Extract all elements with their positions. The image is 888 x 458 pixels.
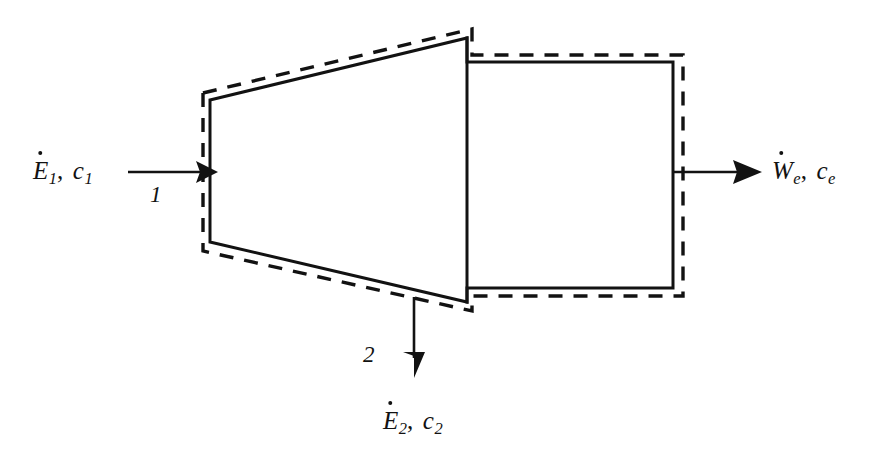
bleed-energy-symbol: E	[383, 408, 398, 433]
bleed-energy-dot-icon	[388, 401, 392, 405]
duct-solid-outline	[210, 38, 673, 302]
bleed-flow-label: E2,c2	[383, 408, 443, 437]
inlet-energy-dot-icon	[38, 151, 42, 155]
outlet-work-label: We,ce	[772, 158, 835, 187]
figure-root: E1,c1 1 We,ce 2 E2,c2	[0, 0, 888, 458]
inlet-velocity-subscript: 1	[84, 169, 93, 188]
outlet-work-dot-icon	[780, 151, 784, 155]
work-output-arrow	[673, 160, 762, 184]
outlet-label-separator: ,	[801, 157, 813, 184]
bleed-velocity-symbol: c	[423, 408, 434, 433]
inlet-velocity-symbol: c	[73, 158, 84, 183]
bleed-station-label: 2	[363, 343, 375, 366]
inlet-energy-subscript: 1	[48, 169, 57, 188]
inlet-station-label: 1	[150, 183, 162, 206]
bleed-velocity-subscript: 2	[434, 419, 443, 438]
inlet-label-separator: ,	[57, 157, 69, 184]
outlet-work-symbol: W	[772, 158, 793, 183]
bleed-energy-subscript: 2	[398, 419, 407, 438]
bleed-label-separator: ,	[407, 407, 419, 434]
control-volume-dashed-boundary	[203, 29, 683, 311]
inlet-flow-label: E1,c1	[33, 158, 93, 187]
outlet-arrow-head	[733, 160, 762, 184]
inlet-energy-symbol: E	[33, 158, 48, 183]
outlet-velocity-symbol: c	[816, 158, 827, 183]
bleed-arrow-head	[403, 352, 425, 378]
outlet-work-subscript: e	[793, 169, 801, 188]
bleed-flow-arrow	[403, 297, 425, 378]
outlet-velocity-subscript: e	[828, 169, 836, 188]
control-volume-diagram	[0, 0, 888, 458]
